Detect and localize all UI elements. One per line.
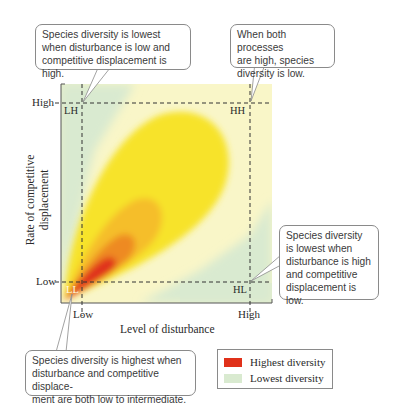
- y-axis-title-line: Rate of competitive: [23, 145, 37, 255]
- legend-label: Highest diversity: [250, 356, 325, 368]
- callout-text: disturbance and competitive displace-: [32, 367, 189, 393]
- callout-text: is lowest when: [286, 242, 372, 255]
- callout-text: Species diversity is highest when: [32, 354, 189, 367]
- callout-text: disturbance is high: [286, 255, 372, 268]
- callout-text: diversity is low.: [237, 67, 328, 80]
- callout-text: are high, species: [237, 54, 328, 67]
- callout-text: When both processes: [237, 28, 328, 54]
- plot-area: [61, 84, 272, 303]
- quadrant-label-hl: HL: [233, 284, 247, 295]
- highest-diversity-swatch: [224, 358, 242, 367]
- callout-text: competitive displacement is high.: [42, 54, 184, 80]
- callout-text: ment are both low to intermediate.: [32, 393, 189, 406]
- x-axis-title: Level of disturbance: [120, 323, 215, 335]
- callout-text: displacement is low.: [286, 281, 372, 307]
- quadrant-label-hh: HH: [230, 105, 245, 116]
- callout-bottom-left: Species diversity is highest when distur…: [25, 350, 196, 396]
- x-tick-low: Low: [73, 308, 93, 320]
- legend: Highest diversity Lowest diversity: [217, 349, 333, 389]
- lowest-diversity-swatch: [224, 374, 242, 383]
- y-axis-title-line: displacement: [37, 145, 51, 255]
- callout-text: and competitive: [286, 268, 372, 281]
- quadrant-label-ll: LL: [66, 284, 79, 295]
- x-tick-high: High: [238, 308, 260, 320]
- y-axis-title: Rate of competitive displacement: [23, 145, 51, 255]
- callout-top-right: When both processes are high, species di…: [230, 24, 335, 68]
- callout-right: Species diversity is lowest when disturb…: [279, 225, 379, 300]
- legend-label: Lowest diversity: [250, 372, 324, 384]
- y-tick-low: Low: [36, 275, 56, 287]
- callout-top-left: Species diversity is lowest when disturb…: [35, 24, 191, 70]
- callout-text: when disturbance is low and: [42, 41, 184, 54]
- callout-text: Species diversity is lowest: [42, 28, 184, 41]
- legend-item-highest: Highest diversity: [224, 355, 325, 369]
- y-tick-high: High: [32, 96, 54, 108]
- quadrant-label-lh: LH: [64, 105, 78, 116]
- callout-text: Species diversity: [286, 229, 372, 242]
- legend-item-lowest: Lowest diversity: [224, 371, 324, 385]
